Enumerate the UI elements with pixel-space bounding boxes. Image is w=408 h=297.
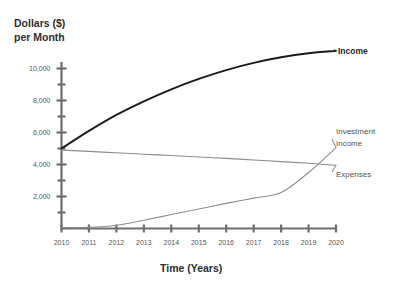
x-tick-label: 2016: [218, 239, 234, 246]
y-tick-label: 4,000: [33, 161, 51, 168]
income-expenses-line-chart: Dollars ($) per Month 2,0004,0006,0008,0…: [0, 0, 408, 297]
y-tick-label: 10,000: [29, 65, 51, 72]
x-tick-label: 2018: [273, 239, 289, 246]
x-tick-label: 2013: [136, 239, 152, 246]
y-axis-title-group: Dollars ($) per Month: [14, 17, 65, 43]
series-label-investment-group: Investment Income: [336, 127, 376, 148]
axes: [61, 62, 337, 229]
leader-line-income: [334, 50, 336, 51]
series-label-expenses-group: Expenses: [336, 170, 371, 179]
x-tick-label: 2014: [164, 239, 180, 246]
series-label-investment-income-line1: Investment: [336, 127, 376, 136]
series-label-income: Income: [338, 46, 368, 56]
y-axis-title-line2: per Month: [14, 31, 65, 43]
series-line-expenses: [62, 150, 337, 165]
series-line-income: [62, 51, 337, 149]
series-label-income-group: Income: [338, 46, 368, 56]
series-lines: [62, 51, 337, 228]
y-tick-label: 6,000: [33, 129, 51, 136]
x-tick-label: 2010: [54, 239, 70, 246]
y-tick-label: 2,000: [33, 193, 51, 200]
x-tick-label: 2020: [328, 239, 344, 246]
x-tick-label: 2011: [81, 239, 96, 246]
y-tick-label: 8,000: [33, 97, 51, 104]
series-label-investment-income-line2: Income: [336, 139, 363, 148]
series-leader-lines: [332, 50, 336, 172]
x-tick-label: 2015: [191, 239, 207, 246]
x-axis-title: Time (Years): [160, 262, 222, 274]
series-line-investment: [62, 148, 337, 228]
x-tick-label: 2017: [246, 239, 262, 246]
y-axis-title-line1: Dollars ($): [14, 17, 65, 29]
x-tick-label: 2012: [109, 239, 125, 246]
chart-canvas: Dollars ($) per Month 2,0004,0006,0008,0…: [0, 0, 408, 297]
series-label-expenses: Expenses: [336, 170, 371, 179]
x-tick-label: 2019: [301, 239, 317, 246]
